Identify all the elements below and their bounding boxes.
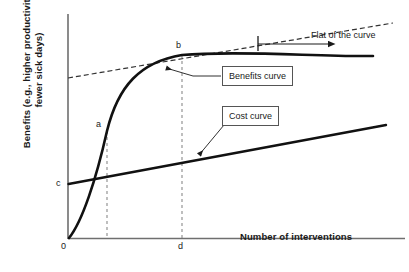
- benefits-curve-callout: Benefits curve: [222, 66, 293, 86]
- flat-of-curve-label: Flat of the curve: [311, 30, 376, 40]
- cost-callout-arrow: [199, 125, 224, 155]
- origin-label: 0: [61, 241, 66, 251]
- chart-figure: Benefits (e.g., higher productivity, few…: [0, 0, 409, 272]
- point-label-d: d: [178, 241, 183, 251]
- x-axis-title: Number of interventions: [240, 231, 352, 242]
- point-label-a: a: [96, 119, 101, 129]
- cost-curve: [69, 125, 387, 184]
- benefits-callout-arrow: [166, 68, 193, 76]
- benefits-curve: [69, 53, 373, 238]
- point-label-c: c: [56, 178, 61, 188]
- y-axis-title: Benefits (e.g., higher productivity, few…: [21, 0, 45, 155]
- cost-curve-callout: Cost curve: [222, 106, 279, 126]
- point-label-b: b: [176, 40, 181, 50]
